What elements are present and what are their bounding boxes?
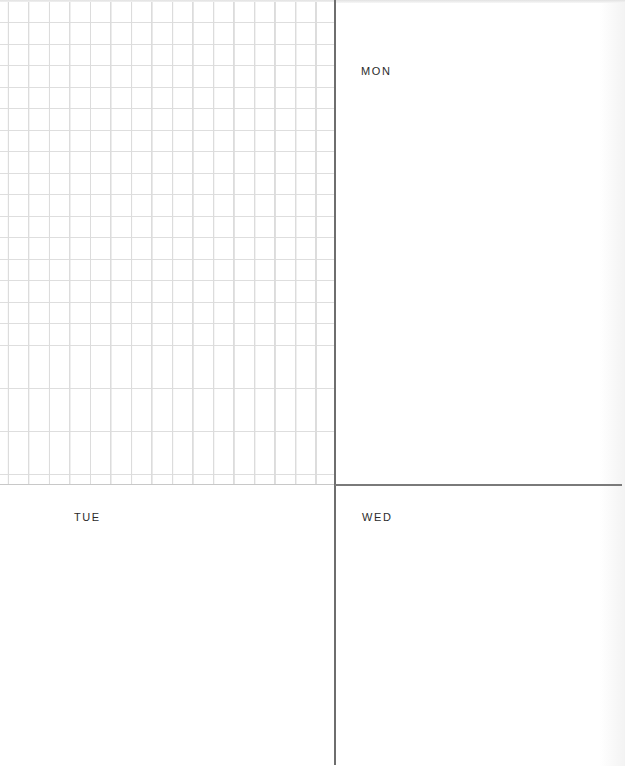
- day-label-wednesday: WED: [362, 511, 392, 523]
- day-label-monday: MON: [361, 65, 391, 77]
- grid-bottom-border: [0, 484, 335, 485]
- notes-grid-area[interactable]: [0, 2, 335, 485]
- planner-page: MON TUE WED: [0, 0, 625, 766]
- day-section-tuesday[interactable]: [0, 486, 334, 766]
- horizontal-divider: [335, 484, 622, 486]
- day-label-tuesday: TUE: [74, 511, 101, 523]
- day-section-wednesday[interactable]: [336, 486, 625, 766]
- vertical-divider: [334, 0, 336, 765]
